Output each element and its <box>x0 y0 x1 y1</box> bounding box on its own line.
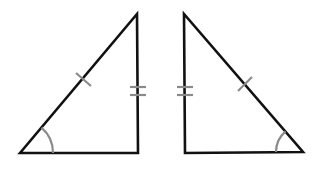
left-triangle <box>20 14 146 153</box>
congruent-triangles-diagram <box>0 0 319 174</box>
left-angle-arc <box>42 128 54 153</box>
right-triangle <box>177 14 303 153</box>
left-triangle-outline <box>20 14 138 153</box>
right-angle-arc <box>276 131 286 152</box>
